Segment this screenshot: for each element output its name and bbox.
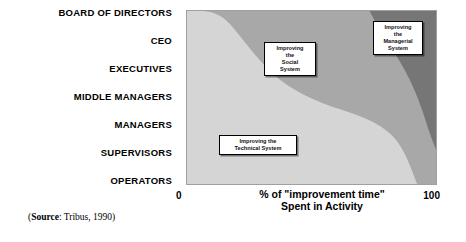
x-axis-max-label: 100 bbox=[423, 190, 440, 201]
role-label-ceo: CEO bbox=[151, 36, 178, 46]
source-key: Source bbox=[31, 212, 59, 222]
callout-social-system: Improving the Social System bbox=[264, 42, 316, 76]
x-axis: 0 % of "improvement time" Spent in Activ… bbox=[170, 188, 460, 222]
plot-area: Improving the Social System Improving th… bbox=[186, 10, 437, 185]
x-axis-title: % of "improvement time" Spent in Activit… bbox=[170, 188, 460, 212]
tribus-improvement-time-figure: BOARD OF DIRECTORS CEO EXECUTIVES MIDDLE… bbox=[0, 0, 466, 242]
role-axis: BOARD OF DIRECTORS CEO EXECUTIVES MIDDLE… bbox=[0, 8, 178, 186]
source-credit: (Source: Tribus, 1990) bbox=[28, 212, 115, 222]
role-label-managers: MANAGERS bbox=[115, 120, 178, 130]
callout-technical-system: Improving the Technical System bbox=[219, 135, 297, 155]
source-value: : Tribus, 1990) bbox=[59, 212, 115, 222]
callout-managerial-system: Improving the Managerial System bbox=[373, 21, 423, 55]
role-label-board-of-directors: BOARD OF DIRECTORS bbox=[58, 8, 178, 18]
role-label-operators: OPERATORS bbox=[110, 176, 178, 186]
role-label-supervisors: SUPERVISORS bbox=[101, 148, 178, 158]
role-label-executives: EXECUTIVES bbox=[109, 64, 178, 74]
role-label-middle-managers: MIDDLE MANAGERS bbox=[74, 92, 178, 102]
